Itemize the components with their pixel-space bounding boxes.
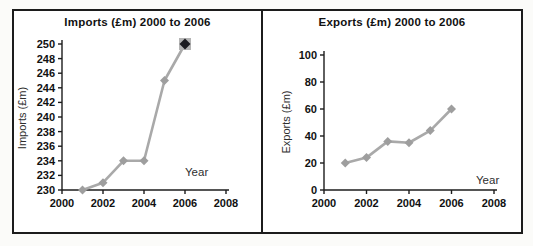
y-tick-label: 20 [305,157,317,169]
y-tick-label: 242 [37,96,55,108]
x-tick-label: 2008 [482,197,506,209]
x-tick-label: 2000 [312,197,336,209]
y-tick-label: 40 [305,130,317,142]
charts-frame: Imports (£m) 2000 to 2006 23023223423623… [12,9,523,234]
imports-chart-plot: 2302322342362382402422442462482502000200… [14,11,263,232]
exports-chart-plot: 02040608010020002002200420062008 [263,11,523,232]
x-tick-label: 2000 [50,197,74,209]
data-line [345,109,451,163]
exports-y-axis-label: Exports (£m) [280,62,294,182]
x-tick-label: 2006 [173,197,197,209]
y-tick-label: 232 [37,169,55,181]
x-tick-label: 2002 [354,197,378,209]
y-tick-label: 240 [37,111,55,123]
imports-chart-panel: Imports (£m) 2000 to 2006 23023223423623… [14,11,263,232]
imports-y-axis-label: Imports (£m) [16,58,30,178]
y-tick-label: 80 [305,76,317,88]
x-tick-label: 2008 [214,197,238,209]
y-tick-label: 248 [37,53,55,65]
x-tick-label: 2004 [397,197,422,209]
y-tick-label: 100 [299,49,317,61]
x-tick-label: 2006 [439,197,463,209]
y-tick-label: 246 [37,67,55,79]
y-tick-label: 250 [37,38,55,50]
data-line [83,44,186,190]
y-tick-label: 0 [311,184,317,196]
data-point-marker [341,159,350,168]
y-tick-label: 60 [305,103,317,115]
y-tick-label: 238 [37,126,55,138]
y-tick-label: 230 [37,184,55,196]
y-tick-label: 244 [37,82,56,94]
exports-x-axis-label: Year [476,174,499,186]
data-point-marker [140,156,149,165]
y-tick-label: 236 [37,140,55,152]
x-tick-label: 2002 [91,197,115,209]
y-tick-label: 234 [37,155,56,167]
data-point-marker [78,186,87,195]
x-tick-label: 2004 [132,197,157,209]
exports-chart-panel: Exports (£m) 2000 to 2006 02040608010020… [263,11,521,232]
imports-x-axis-label: Year [185,166,208,178]
